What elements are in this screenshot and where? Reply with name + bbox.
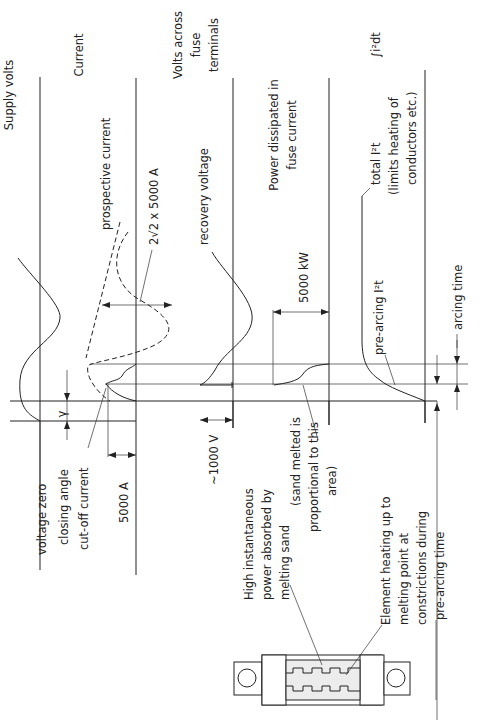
fuse-tag-left-hole xyxy=(238,669,256,687)
v1000-arrow-right xyxy=(225,417,233,423)
power-curve xyxy=(274,364,329,385)
label-i2t-integral: ∫i²dt xyxy=(369,32,383,58)
peak-arrow-left xyxy=(102,302,110,308)
label-power-1: Power dissipated in xyxy=(267,79,281,190)
label-total-i2t-note-1: (limits heating of xyxy=(387,96,401,195)
arcing-arrow-down xyxy=(454,356,460,364)
label-prospective-current: prospective current xyxy=(99,117,113,230)
pre-arcing-leader xyxy=(385,355,395,385)
label-volts-across-2: fuse xyxy=(189,33,203,57)
label-volts-across-3: terminals xyxy=(207,18,221,72)
label-element-heating-3: constrictions during xyxy=(415,511,429,625)
fuse-sand-fill xyxy=(286,660,360,700)
fuse-operation-diagram: γ Supply volts Current Volts across fuse… xyxy=(0,0,480,720)
label-sand-note-1: (sand melted is xyxy=(289,417,303,506)
label-arcing-time: arcing time xyxy=(451,265,465,330)
fuse-end-cap-left xyxy=(262,655,286,705)
label-cut-off-current: cut-off current xyxy=(77,467,91,550)
gamma-label: γ xyxy=(55,410,69,417)
label-power-2: fuse current xyxy=(285,100,299,170)
label-pre-arcing-i2t: pre-arcing I²t xyxy=(372,280,386,355)
actual-current-wave xyxy=(106,364,136,401)
prospective-envelope xyxy=(86,222,120,358)
label-total-i2t-note-2: conductors etc.) xyxy=(405,91,419,185)
power-arrow-right xyxy=(321,309,329,315)
sand-leader xyxy=(290,585,322,665)
fuse-tag-right-hole xyxy=(387,669,405,687)
supply-voltage-wave xyxy=(18,258,60,421)
label-high-power-2: power absorbed by xyxy=(260,489,274,600)
pre-arc-arrow xyxy=(434,376,440,384)
peak-leader xyxy=(140,250,152,302)
label-high-power-1: High instantaneous xyxy=(242,488,256,600)
pre-arcing-time-arrow xyxy=(434,403,440,411)
label-closing-angle: closing angle xyxy=(57,469,71,545)
label-5000kw: 5000 kW xyxy=(297,252,311,303)
power-arrow-left xyxy=(273,309,281,315)
total-i2t-leader xyxy=(362,188,370,196)
fuse-end-cap-right xyxy=(360,655,384,705)
label-sand-note-3: area) xyxy=(325,466,339,496)
peak-arrow-right xyxy=(164,302,172,308)
label-element-heating-2: melting point at xyxy=(397,533,411,625)
recovery-voltage-wave xyxy=(200,252,252,385)
v1000-arrow-left xyxy=(200,417,208,423)
label-peak-prospective: 2√2 x 5000 A xyxy=(147,168,161,245)
label-supply-volts: Supply volts xyxy=(2,60,16,130)
label-volts-across-1: Volts across xyxy=(171,11,185,79)
label-current: Current xyxy=(72,33,86,77)
cutoff-leader xyxy=(88,388,106,448)
label-total-i2t: total I²t xyxy=(369,142,383,185)
label-element-heating-1: Element heating up to xyxy=(379,497,393,625)
label-sand-note-2: proportional to this xyxy=(307,422,321,532)
gamma-arrow-down xyxy=(64,393,70,401)
label-5000a: 5000 A xyxy=(117,482,131,523)
label-high-power-3: melting sand xyxy=(278,525,292,600)
gamma-arrow-up xyxy=(64,421,70,429)
fuse-cartridge-drawing xyxy=(234,655,410,705)
cutoff-arrow-right xyxy=(128,452,136,458)
label-element-heating-4: pre-arcing time xyxy=(433,532,447,620)
cutoff-arrow-left xyxy=(108,452,116,458)
arcing-arrow-up xyxy=(454,384,460,392)
label-recovery-voltage: recovery voltage xyxy=(197,148,211,245)
prospective-current-wave xyxy=(88,232,169,401)
label-1000v: ~1000 V xyxy=(207,434,221,485)
label-voltage-zero: voltage zero xyxy=(35,484,49,555)
